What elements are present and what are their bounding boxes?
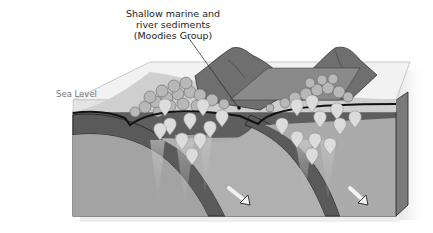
block-shadow-bottom xyxy=(80,216,400,222)
block-side-face xyxy=(396,92,408,216)
sediments-label: Shallow marine and river sediments (Mood… xyxy=(108,8,238,41)
sediments-label-line1: Shallow marine and xyxy=(108,8,238,19)
sediments-label-line2: river sediments xyxy=(108,19,238,30)
sediment-leader-dot xyxy=(237,106,241,110)
sediments-label-line3: (Moodies Group) xyxy=(108,30,238,41)
sea-level-label: Sea Level xyxy=(56,89,97,99)
geology-diagram: Shallow marine and river sediments (Mood… xyxy=(0,0,433,233)
